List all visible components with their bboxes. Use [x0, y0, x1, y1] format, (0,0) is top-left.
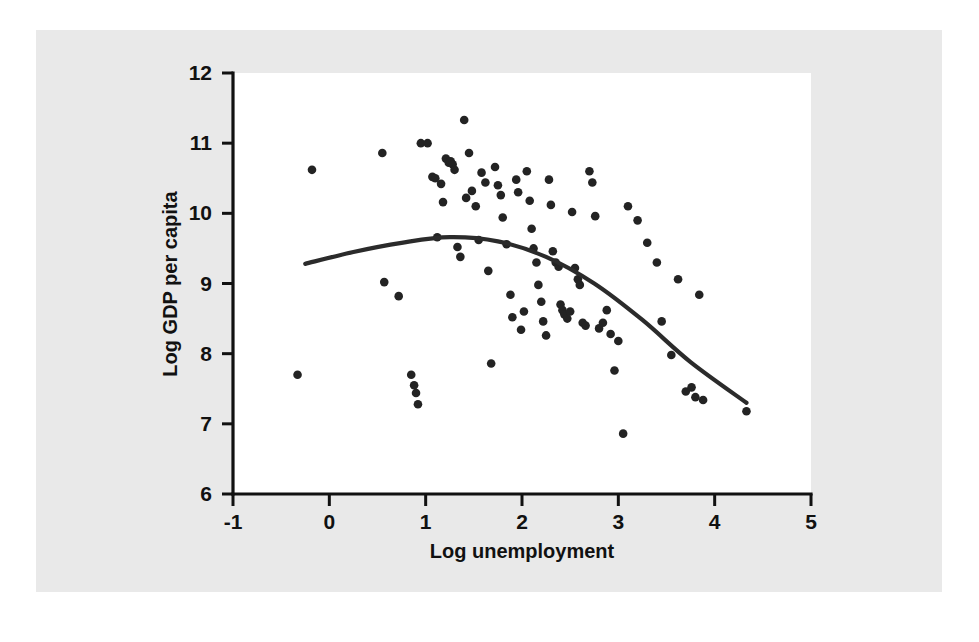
- data-point: [657, 317, 666, 326]
- data-point: [619, 429, 628, 438]
- x-tick-label: 3: [612, 510, 624, 533]
- x-tick-label: 1: [420, 510, 432, 533]
- x-tick-label: -1: [224, 510, 243, 533]
- data-point: [506, 290, 515, 299]
- data-point: [537, 297, 546, 306]
- data-point: [523, 167, 532, 176]
- data-point: [498, 213, 507, 222]
- data-point: [308, 166, 317, 175]
- data-point: [602, 306, 611, 315]
- y-tick-label: 8: [200, 342, 212, 365]
- scatter-points: [293, 116, 751, 438]
- data-point: [412, 389, 421, 398]
- data-point: [566, 307, 575, 316]
- data-point: [591, 212, 600, 221]
- data-point: [667, 351, 676, 360]
- figure-page: 6789101112 -1012345 Log unemployment Log…: [0, 0, 979, 642]
- data-point: [414, 400, 423, 409]
- data-point: [477, 168, 486, 177]
- x-tick-label: 2: [516, 510, 528, 533]
- data-point: [585, 167, 594, 176]
- data-point: [576, 281, 585, 290]
- y-tick-label: 10: [189, 201, 212, 224]
- data-point: [439, 198, 448, 207]
- data-point: [691, 393, 700, 402]
- scatter-chart: 6789101112 -1012345 Log unemployment Log…: [0, 0, 979, 642]
- data-point: [508, 313, 517, 322]
- x-axis-ticks: -1012345: [224, 494, 818, 533]
- data-point: [514, 188, 523, 197]
- data-point: [456, 253, 465, 262]
- fitted-curve: [305, 237, 746, 403]
- data-point: [517, 326, 526, 335]
- y-tick-label: 7: [200, 412, 212, 435]
- data-point: [539, 317, 548, 326]
- data-point: [695, 290, 704, 299]
- data-point: [742, 407, 751, 416]
- data-point: [606, 330, 615, 339]
- data-point: [610, 366, 619, 375]
- data-point: [497, 191, 506, 200]
- data-point: [633, 216, 642, 225]
- data-point: [545, 175, 554, 184]
- data-point: [407, 370, 416, 379]
- data-point: [674, 275, 683, 284]
- data-point: [410, 381, 419, 390]
- data-point: [588, 178, 597, 187]
- data-point: [568, 208, 577, 217]
- x-axis-title: Log unemployment: [430, 540, 615, 562]
- y-axis-title: Log GDP per capita: [159, 191, 181, 377]
- data-point: [484, 267, 493, 276]
- data-point: [512, 175, 521, 184]
- data-point: [471, 202, 480, 211]
- data-point: [378, 149, 387, 158]
- y-tick-label: 6: [200, 482, 212, 505]
- data-point: [527, 224, 536, 233]
- data-point: [468, 187, 477, 196]
- data-point: [643, 239, 652, 248]
- data-point: [614, 337, 623, 346]
- data-point: [534, 281, 543, 290]
- data-point: [380, 278, 389, 287]
- x-tick-label: 5: [805, 510, 817, 533]
- y-tick-label: 12: [189, 61, 212, 84]
- data-point: [462, 194, 471, 203]
- data-point: [699, 396, 708, 405]
- data-point: [450, 166, 459, 175]
- x-tick-label: 0: [323, 510, 335, 533]
- data-point: [532, 258, 541, 267]
- data-point: [465, 149, 474, 158]
- data-point: [547, 201, 556, 210]
- data-point: [542, 331, 551, 340]
- data-point: [487, 359, 496, 368]
- data-point: [549, 247, 558, 256]
- y-tick-label: 9: [200, 272, 212, 295]
- data-point: [687, 383, 696, 392]
- data-point: [481, 178, 490, 187]
- data-point: [581, 321, 590, 330]
- data-point: [491, 163, 500, 172]
- x-tick-label: 4: [709, 510, 721, 533]
- data-point: [653, 258, 662, 267]
- y-axis-ticks: 6789101112: [189, 61, 233, 505]
- data-point: [460, 116, 469, 125]
- data-point: [599, 318, 608, 327]
- data-point: [293, 370, 302, 379]
- data-point: [624, 202, 633, 211]
- axes: [233, 73, 811, 494]
- data-point: [520, 307, 529, 316]
- data-point: [453, 243, 462, 252]
- data-point: [437, 180, 446, 189]
- y-tick-label: 11: [190, 131, 213, 154]
- data-point: [423, 139, 432, 148]
- data-point: [494, 181, 503, 190]
- data-point: [394, 292, 403, 301]
- data-point: [525, 196, 534, 205]
